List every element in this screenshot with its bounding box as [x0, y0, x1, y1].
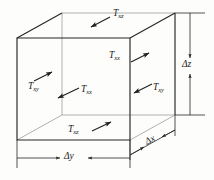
stress-arrows — [34, 17, 152, 131]
arrow-tau-xz-top — [91, 17, 110, 27]
label-delta-z: Δz — [182, 60, 191, 70]
cube-visible-edges — [17, 13, 175, 140]
label-tau-xz-top: Txz — [113, 9, 123, 19]
label-tau-xz-bottom: Txz — [68, 125, 78, 135]
label-delta-y: Δy — [64, 152, 74, 162]
stress-element-figure: Txz Txx Txy Txx Txy Txz Δz Δy Δx — [0, 0, 214, 180]
label-tau-xy-left: Txy — [28, 82, 39, 92]
dim-arrow-x-left — [130, 147, 144, 155]
label-tau-xy-right: Txy — [153, 83, 164, 93]
arrow-tau-xx-upper — [131, 53, 149, 62]
arrow-tau-xz-bottom — [92, 122, 111, 131]
arrow-tau-xy-right — [134, 84, 152, 93]
label-tau-xx-mid: Txx — [81, 85, 92, 95]
arrow-tau-xy-left — [34, 72, 52, 81]
cube-hidden-edges — [17, 13, 175, 140]
dim-arrow-x-right — [162, 130, 175, 137]
label-tau-xx-upper: Txx — [109, 51, 120, 61]
arrow-tau-xx-mid — [58, 88, 79, 98]
